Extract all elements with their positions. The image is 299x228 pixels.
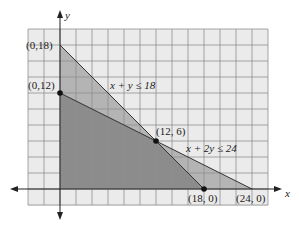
constraint-2-label: x + 2y ≤ 24 — [185, 142, 237, 154]
point-0-18-label: (0,18) — [26, 39, 53, 52]
x-axis-right-arrow-icon — [274, 186, 282, 192]
point-18-0-marker — [201, 186, 207, 192]
point-0-12-label: (0,12) — [28, 79, 55, 92]
point-18-0-label: (18, 0) — [188, 192, 218, 205]
point-24-0-label: (24, 0) — [236, 192, 266, 205]
point-12-6-marker — [153, 138, 159, 144]
y-axis-up-arrow-icon — [57, 10, 63, 18]
y-axis-label: y — [64, 9, 70, 21]
x-axis-label: x — [284, 187, 290, 199]
constraint-1-label: x + y ≤ 18 — [109, 79, 156, 91]
y-axis-down-arrow-icon — [57, 212, 63, 220]
point-0-12-marker — [57, 90, 63, 96]
linear-programming-graph: y x (0,18) (0,12) (12, 6) (18, 0) (24, 0… — [0, 0, 299, 228]
point-12-6-label: (12, 6) — [156, 125, 186, 138]
x-axis-left-arrow-icon — [10, 186, 18, 192]
